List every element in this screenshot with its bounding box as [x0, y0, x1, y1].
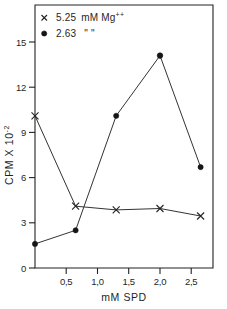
- x-tick-label-0p5: 0,5: [60, 276, 72, 287]
- x-tick-label-2p0: 2,0: [154, 276, 166, 287]
- chart-canvas: 0 3 6 9 12 15 0,5 1,0 1,5 2,0 2,5 mM SPD: [0, 0, 227, 309]
- chart-legend: 5.25mM Mg++ 2.63" ": [42, 11, 125, 39]
- y-tick-label-6: 6: [21, 172, 26, 183]
- x-axis-tick-labels: 0,5 1,0 1,5 2,0 2,5: [60, 276, 197, 287]
- y-axis-title: CPM X 10-2: [3, 125, 15, 185]
- dot-marker-1: [73, 228, 78, 233]
- axis-frame-rect: [35, 5, 213, 268]
- x-axis-ticks: [66, 268, 191, 274]
- y-axis-title-group: CPM X 10-2: [3, 125, 15, 185]
- dot-marker-4: [198, 165, 203, 170]
- series-cross-line: [35, 116, 201, 216]
- dot-marker-0: [32, 241, 37, 246]
- series-dot-line: [35, 56, 201, 244]
- y-tick-label-9: 9: [21, 127, 26, 138]
- y-axis-tick-labels: 0 3 6 9 12 15: [16, 37, 26, 274]
- y-tick-label-12: 12: [16, 82, 26, 93]
- legend-entry-1: 5.25mM Mg++: [42, 11, 125, 23]
- y-tick-label-3: 3: [21, 217, 26, 228]
- y-tick-label-15: 15: [16, 37, 26, 48]
- legend-value-1: 5.25: [56, 12, 77, 23]
- series-dot-2p63: [32, 53, 203, 247]
- y-tick-label-0: 0: [21, 263, 26, 274]
- legend-label-1: 5.25mM Mg++: [56, 11, 124, 23]
- series-cross-5p25: [32, 112, 205, 219]
- y-axis-ticks: [29, 42, 35, 268]
- legend-superscript-1: ++: [116, 11, 125, 18]
- legend-unit-2: " ": [84, 28, 95, 39]
- plot-frame: [35, 5, 213, 268]
- series-dot-markers: [32, 53, 203, 247]
- legend-label-2: 2.63" ": [56, 28, 95, 39]
- legend-unit-1: mM Mg: [81, 12, 115, 23]
- x-tick-label-1p5: 1,5: [123, 276, 135, 287]
- dot-marker-2: [114, 113, 119, 118]
- x-tick-label-2p5: 2,5: [185, 276, 197, 287]
- legend-dot-icon: [42, 31, 47, 36]
- x-tick-label-1p0: 1,0: [91, 276, 103, 287]
- y-axis-title-main: CPM X 10: [3, 132, 15, 185]
- y-axis-title-exponent: -2: [3, 125, 10, 132]
- legend-value-2: 2.63: [56, 28, 77, 39]
- legend-entry-2: 2.63" ": [42, 28, 95, 39]
- dot-marker-3: [157, 53, 163, 59]
- legend-cross-icon: [42, 15, 48, 21]
- x-axis-title: mM SPD: [101, 291, 147, 303]
- chart-figure: 0 3 6 9 12 15 0,5 1,0 1,5 2,0 2,5 mM SPD: [0, 0, 227, 309]
